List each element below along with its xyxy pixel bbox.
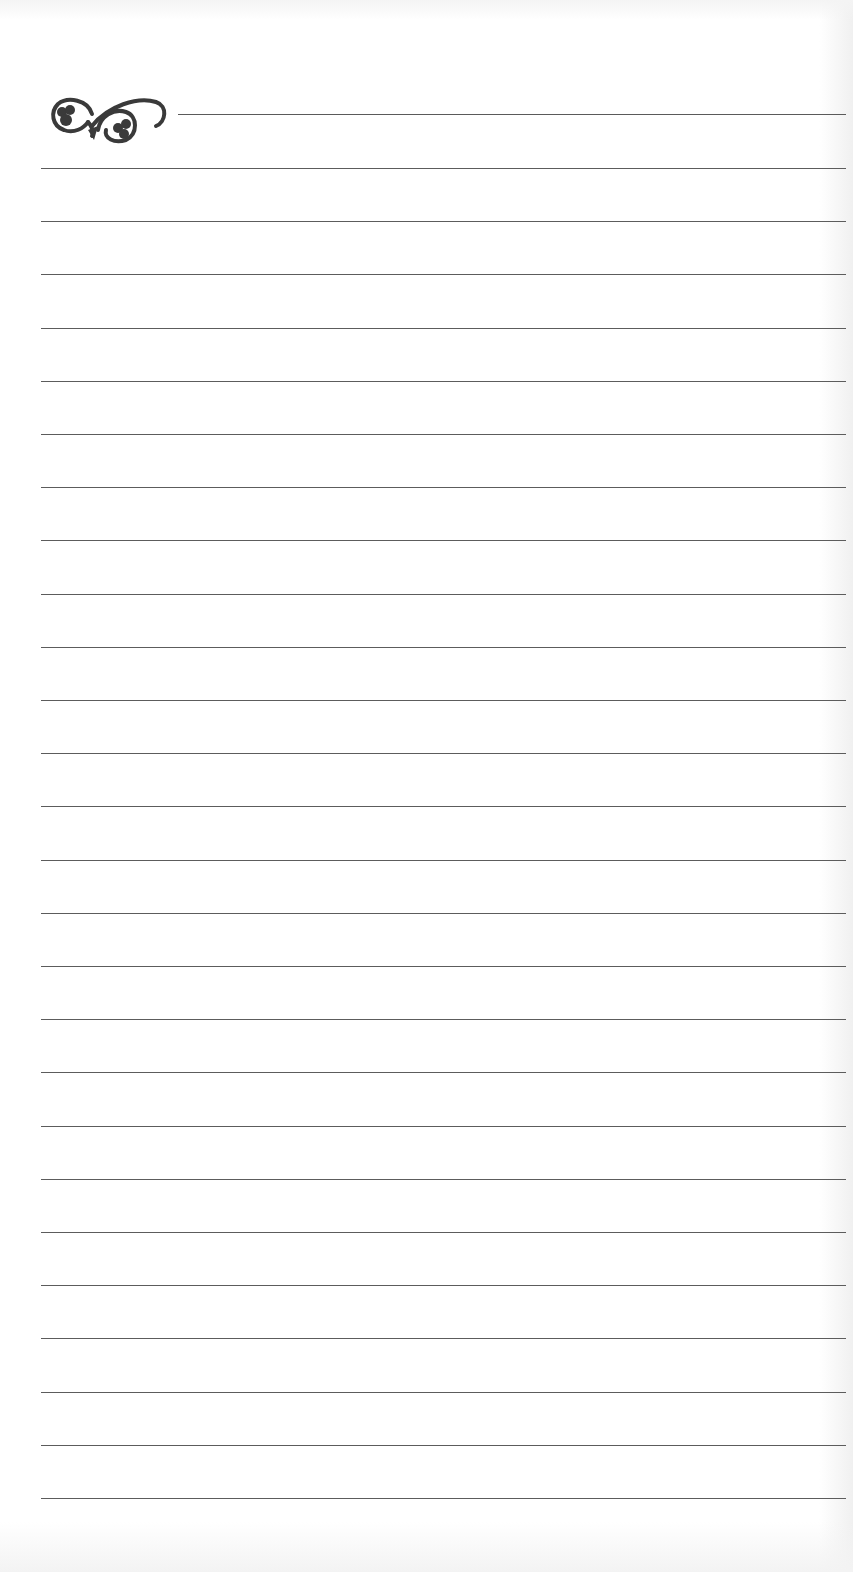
ruled-line	[41, 1232, 846, 1233]
ruled-line	[41, 540, 846, 541]
ruled-line	[41, 1498, 846, 1499]
ruled-line	[41, 328, 846, 329]
ruled-line	[41, 487, 846, 488]
ruled-line	[41, 1019, 846, 1020]
ruled-line	[41, 1445, 846, 1446]
ruled-line	[41, 913, 846, 914]
ruled-line	[41, 434, 846, 435]
header-rule	[178, 114, 846, 115]
ruled-line	[41, 966, 846, 967]
ruled-line	[41, 753, 846, 754]
ruled-line	[41, 647, 846, 648]
ruled-line	[41, 1338, 846, 1339]
ruled-line	[41, 700, 846, 701]
ruled-line	[41, 381, 846, 382]
ruled-line	[41, 806, 846, 807]
ruled-line	[41, 221, 846, 222]
ruled-line	[41, 274, 846, 275]
ruled-line	[41, 1285, 846, 1286]
flourish-ornament-icon	[48, 92, 170, 148]
notebook-page	[0, 0, 853, 1572]
ruled-line	[41, 594, 846, 595]
ruled-line	[41, 860, 846, 861]
ruled-line	[41, 1072, 846, 1073]
ruled-line	[41, 1126, 846, 1127]
ruled-line	[41, 1179, 846, 1180]
ruled-line	[41, 1392, 846, 1393]
ruled-line	[41, 168, 846, 169]
page-bottom-shadow	[0, 1522, 853, 1572]
page-top-shadow	[0, 0, 853, 20]
